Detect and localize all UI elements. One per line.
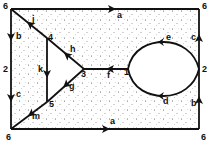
label-b-left: b <box>16 31 22 41</box>
graph-diagram: 6 6 6 6 2 2 4 5 3 1 a a b b c c d e f g … <box>0 0 214 150</box>
label-e: e <box>166 32 171 42</box>
vertex-1: 1 <box>124 67 129 77</box>
label-j: j <box>31 14 35 24</box>
label-b-right: b <box>191 98 197 108</box>
label-h: h <box>70 44 76 54</box>
vertex-6-top-left: 6 <box>3 1 8 11</box>
vertex-2-left: 2 <box>3 64 8 74</box>
vertex-5: 5 <box>49 99 54 109</box>
label-m: m <box>32 111 40 121</box>
vertex-6-top-right: 6 <box>202 1 207 11</box>
vertex-6-bottom-right: 6 <box>201 132 206 142</box>
label-c-right: c <box>191 32 196 42</box>
vertex-4: 4 <box>48 32 53 42</box>
label-g: g <box>69 81 75 91</box>
vertex-6-bottom-left: 6 <box>6 132 11 142</box>
vertex-3: 3 <box>81 69 86 79</box>
vertex-2-right: 2 <box>202 64 207 74</box>
label-c-left: c <box>16 89 21 99</box>
label-d: d <box>163 96 169 106</box>
